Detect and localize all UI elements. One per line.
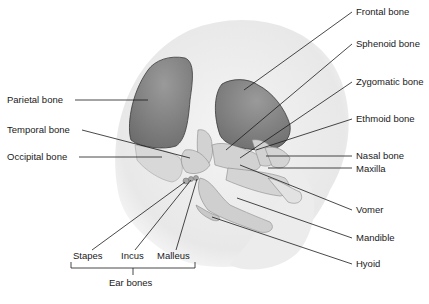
label-temporal-bone: Temporal bone [7,124,70,135]
parietal-bone-shape [129,57,192,148]
label-ear-bones-group: Ear bones [109,277,152,288]
label-zygomatic-bone: Zygomatic bone [356,76,424,87]
label-occipital-bone: Occipital bone [7,151,67,162]
label-mandible: Mandible [356,232,395,243]
label-incus: Incus [121,250,144,261]
skull-diagram: Frontal bone Sphenoid bone Zygomatic bon… [0,0,429,304]
label-vomer: Vomer [356,204,383,215]
label-maxilla: Maxilla [356,163,386,174]
label-ethmoid-bone: Ethmoid bone [356,113,415,124]
label-nasal-bone: Nasal bone [356,150,404,161]
label-malleus: Malleus [157,250,190,261]
label-frontal-bone: Frontal bone [356,6,409,17]
label-stapes: Stapes [73,250,103,261]
label-hyoid: Hyoid [356,258,380,269]
label-sphenoid-bone: Sphenoid bone [356,38,420,49]
label-parietal-bone: Parietal bone [7,94,63,105]
